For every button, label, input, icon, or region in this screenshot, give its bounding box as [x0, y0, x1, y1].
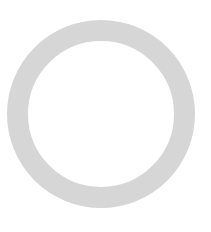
- canvas: [0, 0, 211, 232]
- circle-outline-icon: [7, 20, 195, 208]
